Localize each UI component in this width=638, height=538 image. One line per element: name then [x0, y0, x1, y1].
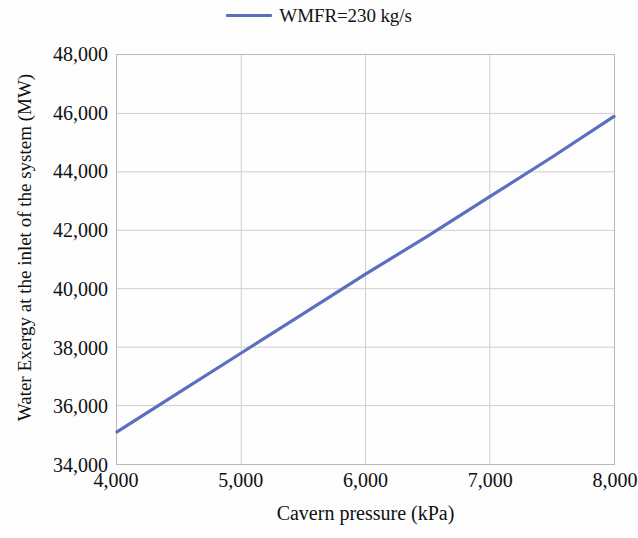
- legend-item-wmfr: WMFR=230 kg/s: [226, 6, 411, 25]
- chart-figure: WMFR=230 kg/s Water Exergy at the inlet …: [0, 0, 638, 538]
- y-axis-tick-label: 42,000: [53, 220, 108, 240]
- y-axis-tick-labels: 34,00036,00038,00040,00042,00044,00046,0…: [24, 54, 108, 465]
- x-axis-tick-label: 5,000: [218, 470, 263, 490]
- x-axis-tick-label: 8,000: [593, 470, 638, 490]
- y-axis-tick-label: 48,000: [53, 44, 108, 64]
- legend-item-label: WMFR=230 kg/s: [279, 6, 411, 25]
- plot-area: [116, 54, 615, 465]
- y-axis-tick-label: 38,000: [53, 338, 108, 358]
- series-line-0: [117, 116, 614, 432]
- x-axis-tick-label: 6,000: [343, 470, 388, 490]
- data-series-layer: [117, 55, 614, 464]
- x-axis-tick-label: 7,000: [468, 470, 513, 490]
- legend-line-swatch-icon: [226, 14, 272, 17]
- x-axis-tick-label: 4,000: [94, 470, 139, 490]
- x-axis-title: Cavern pressure (kPa): [116, 503, 615, 523]
- y-axis-tick-label: 46,000: [53, 103, 108, 123]
- chart-legend: WMFR=230 kg/s: [0, 0, 638, 30]
- x-axis-tick-labels: 4,0005,0006,0007,0008,000: [116, 470, 615, 496]
- y-axis-tick-label: 36,000: [53, 396, 108, 416]
- y-axis-tick-label: 40,000: [53, 279, 108, 299]
- y-axis-tick-label: 44,000: [53, 161, 108, 181]
